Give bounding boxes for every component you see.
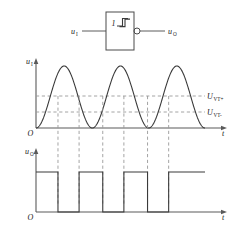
input-y-axis-label: u I xyxy=(26,57,33,67)
circuit-output-label: u O xyxy=(168,27,177,37)
input-y-axis-arrow xyxy=(34,58,39,64)
threshold-upper-label: U VT+ xyxy=(207,92,223,102)
input-x-axis-label: t xyxy=(222,129,225,138)
circuit-output-label-text: u xyxy=(168,27,172,36)
circuit-schematic: 1 u I u O xyxy=(71,12,177,50)
output-y-axis-label: u O xyxy=(25,147,34,157)
threshold-lower-label: U VT- xyxy=(207,108,222,118)
schmitt-trigger-figure: .stroke{fill:none;stroke:#3a3a3a;stroke-… xyxy=(0,0,240,235)
input-origin-label: O xyxy=(28,129,34,138)
inverting-bubble-icon xyxy=(134,28,140,34)
threshold-upper-label-sub: VT+ xyxy=(214,96,224,102)
threshold-lower-label-sub: VT- xyxy=(214,112,222,118)
input-y-axis-label-sub: I xyxy=(31,61,33,67)
output-waveform-plot: u O t O xyxy=(25,147,227,222)
output-x-axis-label: t xyxy=(222,213,225,222)
circuit-input-label-text: u xyxy=(71,27,75,36)
output-y-axis-label-sub: O xyxy=(30,151,34,157)
circuit-output-label-sub: O xyxy=(173,31,177,37)
hysteresis-symbol-icon xyxy=(117,19,130,27)
circuit-input-label-sub: I xyxy=(76,31,78,37)
output-square-waveform xyxy=(36,172,205,212)
input-sine-waveform xyxy=(36,66,205,128)
schmitt-trigger-gate-body xyxy=(106,12,134,50)
input-y-axis-label-text: u xyxy=(26,57,30,66)
output-y-axis-arrow xyxy=(34,148,39,154)
output-origin-label: O xyxy=(28,213,34,222)
output-y-axis-label-text: u xyxy=(25,147,29,156)
gate-marker-label: 1 xyxy=(112,19,116,28)
input-waveform-plot: u I t O U VT+ U VT- xyxy=(26,57,227,138)
circuit-input-label: u I xyxy=(71,27,78,37)
